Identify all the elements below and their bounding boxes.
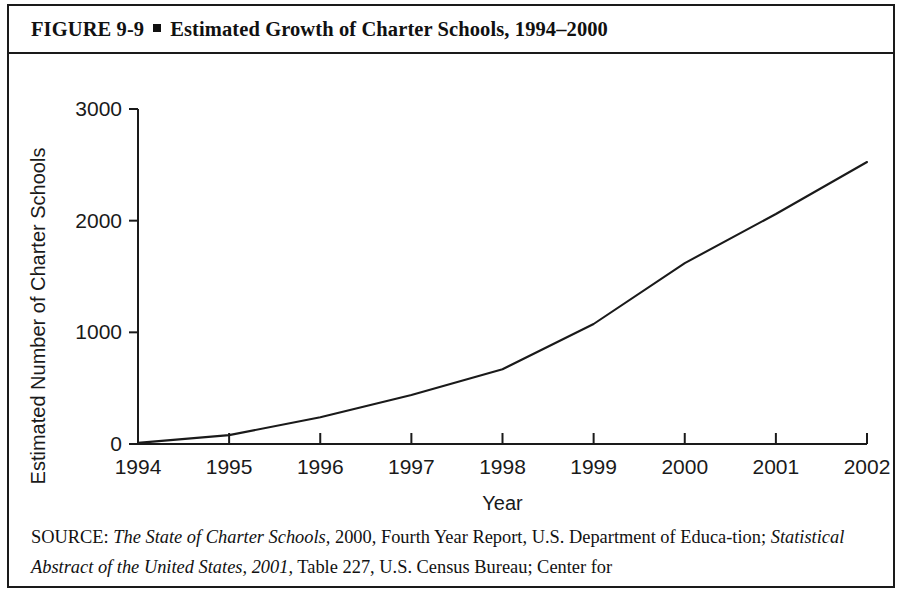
x-tick-label: 2000 [661,455,708,478]
figure-title-text: Estimated Growth of Charter Schools, 199… [170,18,608,41]
data-series-line [138,162,867,443]
figure-number: FIGURE 9-9 [31,18,144,41]
y-tick-label: 3000 [75,97,122,120]
figure-title-bar: FIGURE 9-9 Estimated Growth of Charter S… [9,6,893,54]
source-rest-1: 2000, Fourth Year Report, U.S. Departmen… [330,527,732,547]
x-tick-label: 2001 [753,455,800,478]
y-tick-label: 2000 [75,209,122,232]
y-axis-title: Estimated Number of Charter Schools [27,148,49,485]
source-prefix: SOURCE: [31,527,113,547]
x-axis-tick-labels: 199419951996199719981999200020012002 [115,455,891,478]
source-rest-2: Table 227, U.S. Census Bureau; Center fo… [293,557,612,577]
source-title-1: The State of Charter Schools, [113,527,330,547]
figure-frame: FIGURE 9-9 Estimated Growth of Charter S… [7,4,895,588]
y-tick-label: 0 [110,432,122,455]
y-tick-label: 1000 [75,320,122,343]
x-tick-label: 1996 [297,455,344,478]
chart-container: Estimated Number of Charter Schools 0100… [9,54,893,516]
y-axis-title-group: Estimated Number of Charter Schools [27,148,49,485]
x-tick-label: 2002 [844,455,891,478]
source-lead-2: tion; [732,527,770,547]
x-axis-title: Year [482,492,523,514]
source-note: SOURCE: The State of Charter Schools, 20… [31,522,876,582]
x-axis-ticks [138,433,867,444]
page-title: FIGURE 9-9 Estimated Growth of Charter S… [9,18,608,41]
x-tick-label: 1998 [479,455,526,478]
axis-lines [138,109,867,444]
x-tick-label: 1997 [388,455,435,478]
x-tick-label: 1995 [206,455,253,478]
x-tick-label: 1999 [570,455,617,478]
y-axis-ticks [129,109,138,444]
square-bullet-icon [153,24,161,32]
y-axis-tick-labels: 0100020003000 [75,97,122,455]
line-chart: Estimated Number of Charter Schools 0100… [9,54,893,516]
x-tick-label: 1994 [115,455,162,478]
